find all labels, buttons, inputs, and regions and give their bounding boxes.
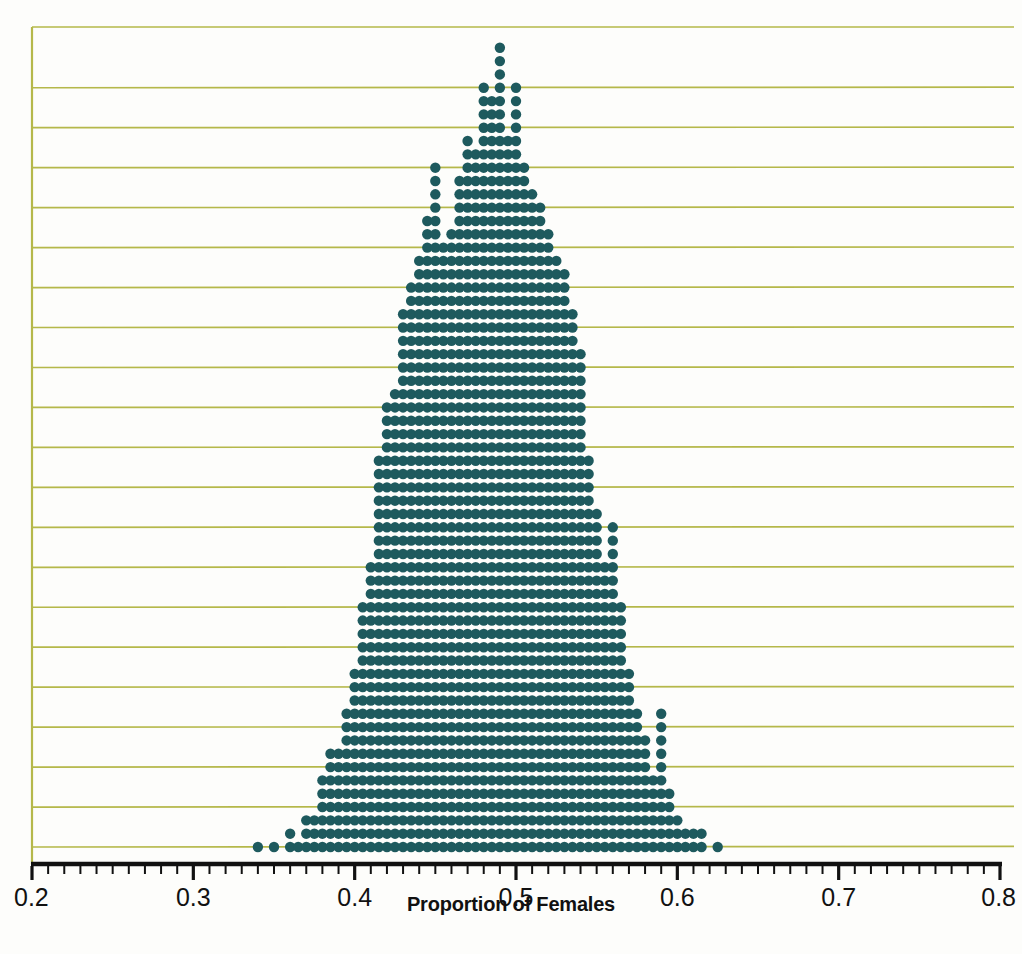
x-axis-ticks — [32, 866, 1000, 880]
dot-plot-canvas: 0.20.30.40.50.60.70.8 — [0, 0, 1022, 954]
dot-plot-figure: 0.20.30.40.50.60.70.8 Proportion of Fema… — [0, 0, 1022, 954]
x-axis-title: Proportion of Females — [0, 893, 1022, 916]
